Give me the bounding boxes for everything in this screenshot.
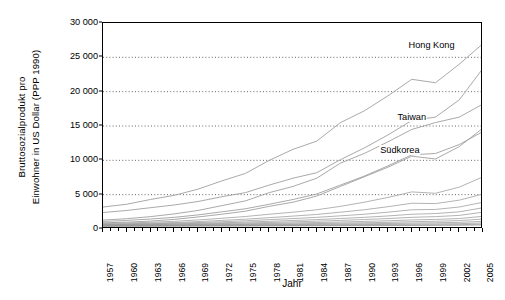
y-tick-label: 10 000 — [40, 154, 98, 164]
x-tick-mark — [379, 228, 380, 231]
series-line — [103, 177, 482, 224]
series-annotation-südkorea: Südkorea — [379, 145, 420, 155]
chart-figure: Bruttosozialprodukt pro Einwohner in US … — [0, 0, 505, 300]
x-tick-mark — [308, 228, 309, 231]
series-line — [103, 128, 482, 223]
x-tick-mark — [197, 228, 198, 232]
x-tick-mark — [347, 228, 348, 231]
x-tick-mark — [387, 228, 388, 232]
x-tick-mark — [229, 228, 230, 231]
y-tick-label: 0 — [40, 223, 98, 233]
x-tick-mark — [316, 228, 317, 232]
x-tick-mark — [284, 228, 285, 231]
x-tick-mark — [205, 228, 206, 231]
y-axis-title-line1: Bruttosozialprodukt pro — [15, 77, 29, 178]
x-tick-mark — [474, 228, 475, 231]
x-tick-mark — [165, 228, 166, 231]
x-tick-mark — [340, 228, 341, 232]
x-tick-mark — [395, 228, 396, 231]
x-tick-mark — [450, 228, 451, 231]
x-tick-mark — [355, 228, 356, 231]
x-tick-mark — [142, 228, 143, 231]
x-tick-mark — [482, 228, 483, 232]
x-tick-mark — [403, 228, 404, 231]
x-tick-mark — [276, 228, 277, 231]
x-tick-mark — [268, 228, 269, 232]
x-tick-mark — [324, 228, 325, 231]
x-axis-tick-labels: 1957196019631966196919721975197819811984… — [102, 233, 482, 273]
x-tick-mark — [173, 228, 174, 232]
x-tick-mark — [458, 228, 459, 232]
series-line — [103, 68, 482, 212]
plot-area: Hong KongTaiwanSüdkorea — [102, 22, 482, 228]
x-tick-mark — [332, 228, 333, 231]
x-tick-mark — [411, 228, 412, 232]
x-tick-mark — [245, 228, 246, 232]
x-tick-mark — [442, 228, 443, 231]
x-tick-mark — [126, 228, 127, 232]
y-axis-tick-labels: 05 00010 00015 00020 00025 00030 000 — [40, 0, 98, 300]
x-axis-title: Jahr — [102, 278, 482, 289]
x-tick-mark — [427, 228, 428, 231]
x-tick-mark — [300, 228, 301, 231]
x-tick-mark — [260, 228, 261, 231]
x-tick-mark — [292, 228, 293, 232]
x-tick-label: 2005 — [485, 263, 495, 282]
y-tick-label: 20 000 — [40, 86, 98, 96]
x-tick-mark — [435, 228, 436, 232]
x-tick-mark — [419, 228, 420, 231]
series-annotation-taiwan: Taiwan — [396, 112, 427, 122]
x-tick-mark — [134, 228, 135, 231]
x-tick-mark — [213, 228, 214, 231]
x-tick-mark — [371, 228, 372, 231]
y-tick-label: 5 000 — [40, 189, 98, 199]
y-tick-label: 25 000 — [40, 51, 98, 61]
x-tick-mark — [181, 228, 182, 231]
plot-lines — [103, 23, 482, 228]
x-tick-mark — [150, 228, 151, 232]
x-tick-mark — [237, 228, 238, 231]
series-annotation-hong-kong: Hong Kong — [408, 40, 456, 50]
x-tick-mark — [118, 228, 119, 231]
x-tick-mark — [466, 228, 467, 231]
y-tick-label: 30 000 — [40, 17, 98, 27]
x-tick-mark — [221, 228, 222, 232]
series-line — [103, 131, 482, 221]
x-tick-mark — [363, 228, 364, 232]
x-tick-mark — [110, 228, 111, 231]
y-tick-label: 15 000 — [40, 120, 98, 130]
x-tick-mark — [252, 228, 253, 231]
x-tick-mark — [157, 228, 158, 231]
x-tick-mark — [102, 228, 103, 232]
x-tick-mark — [189, 228, 190, 231]
